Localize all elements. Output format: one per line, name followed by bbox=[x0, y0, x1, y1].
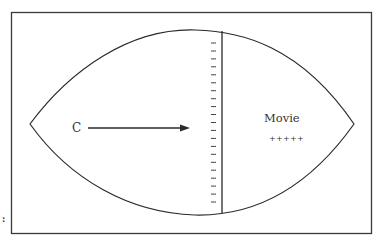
margin-mark: : bbox=[2, 214, 5, 224]
label-movie: Movie bbox=[264, 111, 300, 125]
diagram-canvas: C Movie +++++ : bbox=[0, 0, 377, 241]
frame-border bbox=[12, 13, 372, 234]
label-c: C bbox=[72, 121, 81, 135]
arrow-head-icon bbox=[180, 125, 190, 132]
diagram-svg: C Movie +++++ : bbox=[0, 0, 377, 241]
label-plus-marks: +++++ bbox=[269, 134, 304, 143]
tick-marks bbox=[211, 43, 216, 202]
